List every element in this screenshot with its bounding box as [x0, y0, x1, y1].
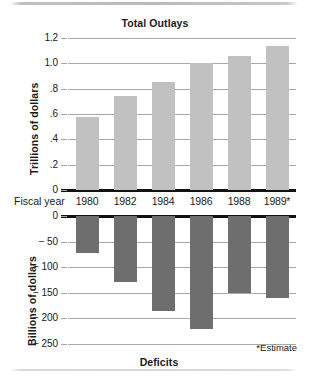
scan-artifact-bottom — [10, 369, 298, 371]
y-axis-tick-label: 0 — [10, 210, 58, 221]
gridline — [68, 242, 296, 243]
bar — [266, 46, 289, 190]
y-axis-tick-label: 1.2 — [10, 32, 58, 43]
bar — [76, 216, 99, 253]
bar — [228, 216, 251, 293]
tick-mark — [61, 293, 67, 294]
tick-mark — [61, 139, 67, 140]
tick-mark — [61, 114, 67, 115]
y-axis-tick-label: .2 — [10, 159, 58, 170]
figure-canvas: Total Outlays Trillions of dollars Fisca… — [0, 0, 310, 380]
y-axis-tick-label: − 200 — [10, 312, 58, 323]
y-axis-tick-label: − 150 — [10, 287, 58, 298]
tick-mark — [61, 216, 67, 217]
bar — [152, 82, 175, 190]
scan-artifact-top — [10, 2, 298, 5]
bar — [114, 96, 137, 190]
tick-mark — [61, 190, 67, 191]
bar — [266, 216, 289, 298]
category-tick-label: 1984 — [145, 195, 181, 207]
category-tick-label: 1988 — [221, 195, 257, 207]
tick-mark — [61, 89, 67, 90]
y-axis-tick-label: − 250 — [10, 338, 58, 349]
y-axis-tick-label: 1.0 — [10, 57, 58, 68]
category-tick-label: 1982 — [107, 195, 143, 207]
bar — [152, 216, 175, 311]
gridline — [68, 139, 296, 140]
bar — [228, 56, 251, 190]
bar — [114, 216, 137, 282]
y-axis-tick-label: 0 — [10, 184, 58, 195]
y-axis-tick-label: .4 — [10, 133, 58, 144]
gridline — [68, 318, 296, 319]
gridline — [68, 165, 296, 166]
tick-mark — [61, 267, 67, 268]
y-axis-tick-label: .6 — [10, 108, 58, 119]
category-axis-row: Fiscal year 198019821984198619881989* — [0, 195, 310, 209]
gridline — [68, 267, 296, 268]
y-axis-tick-label: − 100 — [10, 261, 58, 272]
y-axis-tick-label: − 50 — [10, 236, 58, 247]
gridline — [68, 293, 296, 294]
tick-mark — [61, 38, 67, 39]
estimate-footnote: *Estimate — [256, 342, 297, 353]
category-tick-label: 1980 — [69, 195, 105, 207]
gridline — [68, 63, 296, 64]
bar — [190, 63, 213, 190]
gridline — [68, 114, 296, 115]
bar — [190, 216, 213, 329]
tick-mark — [61, 318, 67, 319]
tick-mark — [61, 344, 67, 345]
category-tick-label: 1986 — [183, 195, 219, 207]
bar — [76, 117, 99, 190]
chart-title-deficits: Deficits — [0, 356, 310, 368]
plot-area-total-outlays — [68, 38, 296, 190]
gridline — [68, 38, 296, 39]
gridline — [68, 89, 296, 90]
category-tick-label: 1989* — [259, 195, 295, 207]
tick-mark — [61, 242, 67, 243]
chart-title-total-outlays: Total Outlays — [0, 17, 310, 29]
category-axis-label: Fiscal year — [14, 195, 65, 207]
tick-mark — [61, 165, 67, 166]
tick-mark — [61, 63, 67, 64]
plot-area-deficits — [68, 216, 296, 344]
y-axis-tick-label: .8 — [10, 83, 58, 94]
